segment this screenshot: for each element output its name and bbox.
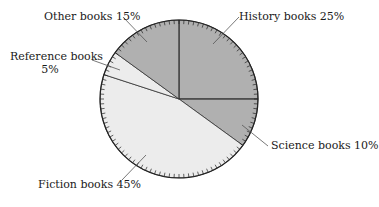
- label-fiction: Fiction books 45%: [38, 178, 141, 191]
- pie-slice-history-books: [179, 20, 258, 99]
- label-reference-line2: 5%: [10, 63, 90, 76]
- label-other: Other books 15%: [44, 10, 140, 23]
- label-science: Science books 10%: [271, 139, 379, 152]
- label-reference: Reference books 5%: [10, 50, 90, 76]
- label-history: History books 25%: [239, 10, 344, 23]
- label-reference-line1: Reference books: [10, 50, 90, 63]
